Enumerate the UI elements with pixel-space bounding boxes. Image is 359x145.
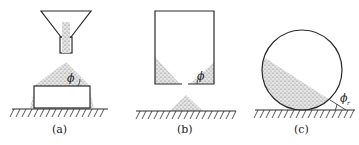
panel-c: ϕ r (c): [254, 30, 355, 136]
panel-a: ϕ (a): [10, 11, 108, 136]
ground-hatch-a: [10, 109, 104, 117]
bin-material-left: [155, 57, 180, 84]
panel-b: ϕ (b): [136, 11, 236, 136]
block: [34, 86, 90, 108]
angle-arc-c: [335, 104, 337, 110]
panel-label-c: (c): [294, 123, 309, 136]
angle-symbol-b: ϕ: [197, 70, 205, 83]
heap-a: [34, 62, 90, 86]
panel-label-a: (a): [52, 123, 67, 136]
panel-label-b: (b): [177, 123, 193, 136]
angle-symbol-a: ϕ: [67, 72, 75, 85]
heap-b: [170, 95, 203, 111]
ground-hatch-c: [254, 110, 354, 118]
angle-subscript-c: r: [347, 99, 351, 106]
angle-of-repose-figure: ϕ (a) ϕ (b) ϕ r: [0, 0, 359, 145]
ground-hatch-b: [136, 111, 236, 119]
funnel-material: [62, 22, 70, 53]
